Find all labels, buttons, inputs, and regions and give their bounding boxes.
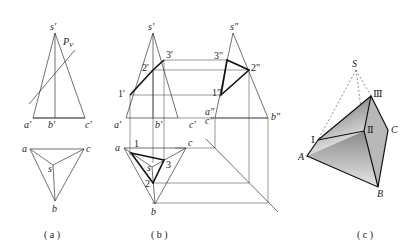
panel-a-top-view: a c s b	[22, 143, 91, 214]
base-triangle-top	[30, 149, 84, 201]
label-s-prime: s'	[148, 21, 155, 32]
label-c-prime: c'	[189, 119, 196, 130]
panel-a-front-view: s' PV a' b' c'	[24, 21, 92, 130]
label-2-prime: 2'	[142, 62, 149, 73]
label-s-double: s"	[230, 21, 239, 32]
label-b-prime: b'	[48, 119, 56, 130]
label-c-double: c"	[205, 115, 214, 126]
label-c: c	[188, 137, 193, 148]
panel-b-top-view: a 1 c s 3 2 b	[115, 137, 193, 217]
label-S: S	[352, 58, 357, 69]
pyramid-front-outline	[126, 33, 178, 118]
label-s: s	[147, 162, 151, 173]
section-triangle-side	[221, 60, 249, 95]
label-b: b	[52, 203, 57, 214]
label-B: B	[377, 188, 383, 199]
panel-b-front-view: s' 3' 2' 1' a' b' c'	[114, 21, 196, 130]
label-A: A	[297, 151, 305, 162]
caption-b: ( b )	[151, 229, 168, 241]
caption-a: ( a )	[44, 229, 60, 241]
label-a-prime: a'	[114, 119, 122, 130]
diagram-canvas: s' PV a' b' c' a c s b ( a )	[0, 0, 410, 250]
pyramid-side-outline	[215, 33, 268, 118]
label-1: 1	[134, 138, 139, 149]
label-3-prime: 3'	[166, 49, 173, 60]
projection-lines	[130, 60, 278, 212]
panel-b-side-view: s" 3" 2" 1" a" c" b"	[205, 21, 281, 126]
miter-line	[206, 139, 278, 212]
label-b: b	[151, 206, 156, 217]
edge-sb-top	[53, 165, 55, 201]
label-s-prime: s'	[50, 21, 57, 32]
label-I: Ⅰ	[311, 134, 315, 145]
caption-c: ( c )	[357, 229, 373, 241]
label-1-prime: 1'	[118, 88, 125, 99]
label-s: s	[48, 163, 52, 174]
label-c: c	[86, 143, 91, 154]
label-2-double: 2"	[251, 62, 260, 73]
label-II: Ⅱ	[367, 124, 374, 135]
label-a-prime: a'	[24, 119, 32, 130]
label-3-double: 3"	[214, 50, 223, 61]
label-1-double: 1"	[212, 87, 221, 98]
panel-b: s' 3' 2' 1' a' b' c' s" 3" 2" 1" a" c" b…	[114, 21, 281, 241]
label-a: a	[115, 142, 120, 153]
label-III: Ⅲ	[373, 88, 383, 99]
label-2: 2	[145, 178, 150, 189]
label-pv: PV	[62, 36, 74, 49]
panel-a: s' PV a' b' c' a c s b ( a )	[22, 21, 92, 241]
label-3: 3	[166, 159, 171, 170]
label-a: a	[22, 143, 27, 154]
label-c-prime: c'	[85, 119, 92, 130]
plane-pv-trace	[29, 50, 75, 104]
label-C: C	[391, 124, 398, 135]
label-b-prime: b'	[155, 119, 163, 130]
panel-c: S Ⅲ Ⅱ C Ⅰ A B ( c )	[297, 58, 398, 241]
label-b-double: b"	[271, 111, 281, 122]
pyramid-front-outline	[33, 33, 85, 118]
